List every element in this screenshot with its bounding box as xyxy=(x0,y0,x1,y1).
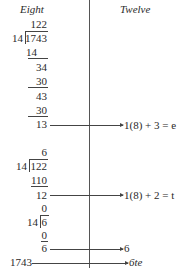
step-1e: 30 xyxy=(36,104,47,116)
remainder-1: 13 xyxy=(36,118,47,130)
divisor-1: 14 xyxy=(12,32,23,44)
arrow-2 xyxy=(50,195,123,196)
header-twelve: Twelve xyxy=(120,3,150,15)
remainder-2: 12 xyxy=(36,189,47,201)
rule xyxy=(31,186,48,187)
remainder-3: 6 xyxy=(42,242,48,254)
result-2: 1(8) + 2 = t xyxy=(124,189,174,201)
dividend-1: 1743 xyxy=(25,32,47,44)
step-1b: 34 xyxy=(36,61,47,73)
divisor-3: 14 xyxy=(27,216,38,228)
step-1a: 14 xyxy=(26,46,37,58)
quotient-2: 6 xyxy=(42,146,48,158)
arrow-3 xyxy=(50,249,123,250)
result-1: 1(8) + 3 = e xyxy=(124,119,176,131)
rule xyxy=(28,116,48,117)
arrow-1 xyxy=(50,125,123,126)
divisor-2: 14 xyxy=(16,160,27,172)
step-3a: 0 xyxy=(42,229,48,241)
result-3: 6 xyxy=(124,242,130,254)
quotient-3: 0 xyxy=(42,202,48,214)
header-eight: Eight xyxy=(20,3,44,15)
step-1d: 43 xyxy=(36,90,47,102)
dividend-3: 6 xyxy=(42,216,48,228)
column-divider xyxy=(89,0,90,268)
arrow-final xyxy=(32,263,128,264)
step-2a: 110 xyxy=(31,174,47,186)
rule xyxy=(28,87,48,88)
final-eight: 1743 xyxy=(10,256,32,268)
dividend-2: 122 xyxy=(31,160,48,172)
final-twelve: 6te xyxy=(129,256,142,268)
step-1c: 30 xyxy=(36,75,47,87)
rule xyxy=(28,58,48,59)
quotient-1: 122 xyxy=(31,18,48,30)
